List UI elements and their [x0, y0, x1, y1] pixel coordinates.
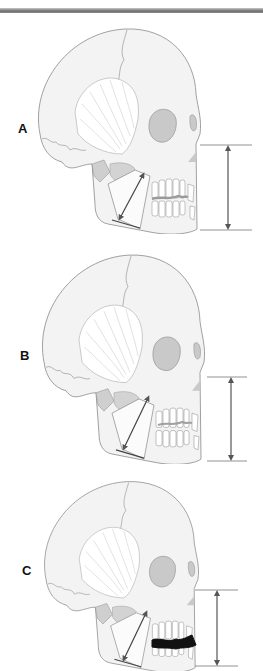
- panel-b: B: [0, 250, 263, 464]
- panel-label-c: C: [22, 563, 31, 578]
- panel-a: A: [0, 24, 263, 234]
- header-rule: [0, 8, 263, 13]
- skull-illustration-a: [0, 24, 263, 234]
- skull-illustration-c: [0, 477, 263, 671]
- panel-label-b: B: [20, 348, 29, 363]
- panel-c: C: [0, 477, 263, 671]
- skull-illustration-b: [0, 250, 263, 464]
- panel-label-a: A: [18, 121, 27, 136]
